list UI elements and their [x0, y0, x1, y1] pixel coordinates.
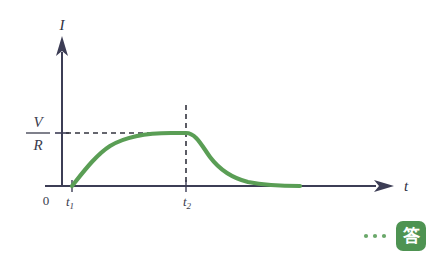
badge-dot — [364, 234, 368, 238]
y-value-denominator: R — [32, 137, 42, 153]
x-axis-arrow-icon — [374, 180, 394, 192]
y-value-numerator: V — [33, 114, 44, 130]
figure-page: I t V R 0 t1 t2 — [0, 0, 436, 257]
y-axis-label: I — [59, 17, 66, 33]
t2-tick-label: t2 — [183, 194, 192, 211]
t1-tick-label: t1 — [66, 194, 74, 211]
origin-label: 0 — [43, 193, 50, 208]
current-vs-time-chart: I t V R 0 t1 t2 — [0, 0, 436, 257]
t1-subscript: 1 — [70, 201, 75, 211]
answer-badge-label[interactable]: 答 — [403, 226, 421, 246]
x-axis-label: t — [404, 178, 409, 194]
t2-subscript: 2 — [187, 201, 192, 211]
badge-dot — [373, 234, 377, 238]
badge-dot — [382, 234, 386, 238]
